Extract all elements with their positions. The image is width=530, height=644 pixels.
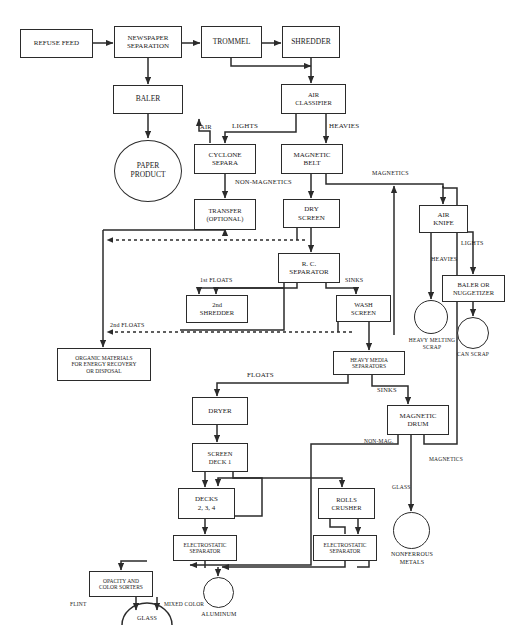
aluminum-text: ALUMINUM: [201, 611, 236, 617]
rolls-crusher-line1: ROLLS: [336, 496, 357, 504]
node-wash-screen[interactable]: WASH SCREEN: [336, 295, 391, 322]
glass-label: GLASS: [122, 615, 172, 621]
node-air-classifier[interactable]: AIR CLASSIFIER: [281, 84, 346, 114]
dry-screen-line1: DRY: [304, 205, 318, 213]
edge-rc-sinks-to-wash-screen: [326, 283, 356, 294]
dry-screen-line2: SCREEN: [298, 214, 325, 222]
first-floats-text: 1st FLOATS: [200, 277, 233, 283]
edge-label-heavies-top: HEAVIES: [329, 122, 359, 130]
node-decks-234[interactable]: DECKS 2, 3, 4: [178, 488, 235, 519]
node-heavy-media-separators[interactable]: HEAVY MEDIA SEPARATORS: [333, 351, 405, 375]
node-opacity-color-sorters[interactable]: OPACITY AND COLOR SORTERS: [89, 571, 153, 597]
node-paper-product[interactable]: PAPER PRODUCT: [114, 140, 182, 202]
cyclone-line2: SEPARA: [212, 159, 238, 167]
edge-label-mixed-color: MIXED COLOR: [164, 601, 204, 607]
edge-label-floats: FLOATS: [247, 371, 274, 379]
node-transfer[interactable]: TRANSFER (OPTIONAL): [194, 199, 256, 230]
node-dry-screen[interactable]: DRY SCREEN: [283, 199, 340, 228]
edge-floats-to-dryer: [217, 375, 348, 396]
process-flow-diagram: [0, 0, 530, 644]
hms-sep-line2: SEPARATORS: [352, 363, 386, 369]
newspaper-separation-line1: NEWSPAPER: [128, 34, 169, 42]
node-refuse-feed[interactable]: REFUSE FEED: [20, 29, 93, 58]
node-baler-or-nuggetizer[interactable]: BALER OR NUGGETIZER: [442, 275, 505, 302]
paper-product-line2: PRODUCT: [130, 171, 165, 180]
node-nonferrous-metals-circle[interactable]: [393, 512, 430, 549]
lights-knife-text: LIGHTS: [461, 240, 484, 246]
edge-trommel-bypass: [231, 58, 311, 66]
edge-label-non-mag: NON-MAG.: [364, 438, 394, 444]
edge-es1-to-sorters: [121, 561, 147, 570]
edge-label-glass-line: GLASS: [392, 484, 410, 490]
transfer-line2: (OPTIONAL): [207, 215, 244, 223]
rolls-crusher-line2: CRUSHER: [332, 504, 362, 512]
node-magnetic-belt[interactable]: MAGNETIC BELT: [281, 144, 343, 174]
edge-label-second-floats: 2nd FLOATS: [110, 322, 145, 328]
node-rc-separator[interactable]: R. C. SEPARATOR: [278, 253, 340, 283]
heavies-knife-text: HEAVIES: [431, 256, 457, 262]
nonferrous-line1: NONFERROUS: [391, 551, 433, 557]
rc-separator-line2: SEPARATOR: [289, 268, 328, 276]
magnetic-drum-line2: DRUM: [407, 420, 428, 428]
non-mag-text: NON-MAG.: [364, 438, 394, 444]
node-air-knife[interactable]: AIR KNIFE: [419, 205, 468, 233]
edge-label-non-magnetics: NON-MAGNETICS: [235, 178, 292, 185]
node-rolls-crusher[interactable]: ROLLS CRUSHER: [318, 488, 375, 519]
edge-lights-to-nuggetizer: [456, 232, 473, 274]
nonferrous-metals-label: NONFERROUS METALS: [382, 551, 442, 567]
decks-line2: 2, 3, 4: [198, 504, 216, 512]
edge-rc-floats-to-2nd-shredder-b: [199, 283, 284, 294]
air-classifier-line2: CLASSIFIER: [295, 99, 331, 107]
node-cyclone-separa[interactable]: CYCLONE SEPARA: [194, 144, 256, 174]
node-can-scrap-circle[interactable]: [457, 317, 489, 349]
newspaper-separation-line2: SEPARATION: [127, 42, 169, 50]
sorters-line2: COLOR SORTERS: [99, 584, 143, 590]
glass-line-text: GLASS: [392, 484, 410, 490]
node-dryer[interactable]: DRYER: [192, 397, 248, 425]
node-electrostatic-separator-1[interactable]: ELECTROSTATIC SEPARATOR: [173, 535, 237, 561]
hms-line2: SCRAP: [423, 344, 441, 350]
edge-label-lights-knife: LIGHTS: [461, 240, 484, 246]
edge-label-air: AIR: [200, 123, 212, 130]
wash-screen-line1: WASH: [354, 301, 372, 309]
heavy-melting-scrap-label: HEAVY MELTING SCRAP: [404, 337, 460, 351]
screen-deck1-line2: DECK 1: [209, 458, 232, 466]
node-organic-materials[interactable]: ORGANIC MATERIALS FOR ENERGY RECOVERY OR…: [57, 348, 151, 381]
air-text: AIR: [200, 123, 212, 130]
cyclone-line1: CYCLONE: [208, 151, 241, 159]
node-baler[interactable]: BALER: [113, 85, 183, 114]
air-classifier-line1: AIR: [308, 91, 319, 99]
second-floats-text: 2nd FLOATS: [110, 322, 145, 328]
node-newspaper-separation[interactable]: NEWSPAPER SEPARATION: [114, 26, 182, 58]
edge-label-magnetics-drum: MAGNETICS: [429, 456, 463, 462]
node-second-shredder[interactable]: 2nd SHREDDER: [186, 295, 248, 323]
air-knife-line1: AIR: [437, 211, 449, 219]
heavies-top-text: HEAVIES: [329, 122, 359, 130]
non-magnetics-text: NON-MAGNETICS: [235, 178, 292, 185]
shredder-label: SHREDDER: [291, 38, 331, 47]
edge-magnetics-to-air-knife: [326, 174, 443, 204]
edge-label-magnetics-top: MAGNETICS: [372, 170, 409, 176]
floats-text: FLOATS: [247, 371, 274, 379]
node-aluminum-circle[interactable]: [203, 577, 234, 608]
wash-screen-line2: SCREEN: [351, 309, 376, 317]
node-trommel[interactable]: TROMMEL: [201, 26, 262, 58]
edge-es2-right-out: [357, 561, 369, 567]
node-shredder[interactable]: SHREDDER: [282, 26, 340, 58]
flint-text: FLINT: [70, 601, 87, 607]
hms-line1: HEAVY MELTING: [409, 337, 456, 343]
node-electrostatic-separator-2[interactable]: ELECTROSTATIC SEPARATOR: [313, 535, 377, 561]
can-scrap-label: CAN SCRAP: [447, 351, 499, 358]
node-magnetic-drum[interactable]: MAGNETIC DRUM: [387, 405, 449, 435]
magnetics-top-text: MAGNETICS: [372, 170, 409, 176]
magnetic-belt-line1: MAGNETIC: [294, 151, 331, 159]
node-heavy-melting-scrap-circle[interactable]: [414, 300, 448, 334]
refuse-feed-label: REFUSE FEED: [34, 39, 79, 47]
organic-line3: OR DISPOSAL: [86, 368, 121, 374]
nuggetizer-line2: NUGGETIZER: [453, 289, 494, 297]
magnetics-drum-text: MAGNETICS: [429, 456, 463, 462]
decks-line1: DECKS: [195, 495, 218, 503]
trommel-label: TROMMEL: [213, 38, 251, 47]
node-screen-deck-1[interactable]: SCREEN DECK 1: [192, 443, 248, 472]
magnetic-belt-line2: BELT: [304, 159, 321, 167]
